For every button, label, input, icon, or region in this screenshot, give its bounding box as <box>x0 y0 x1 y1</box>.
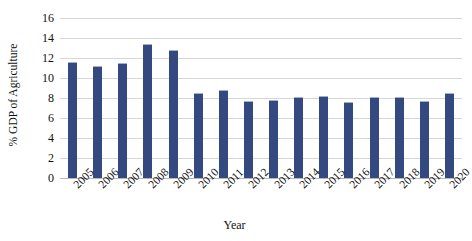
bar <box>319 96 328 178</box>
bar <box>244 101 253 178</box>
y-axis-tick-14: 14 <box>28 32 54 44</box>
bar-slot <box>311 18 336 178</box>
bar-slot <box>261 18 286 178</box>
bar <box>93 66 102 178</box>
bar <box>420 101 429 178</box>
bar <box>194 93 203 178</box>
bar <box>395 97 404 178</box>
y-axis-tick-16: 16 <box>28 12 54 24</box>
bar-slot <box>186 18 211 178</box>
bar-slot <box>110 18 135 178</box>
x-tick-slot: 2009 <box>161 180 186 222</box>
x-tick-slot: 2012 <box>236 180 261 222</box>
x-tick-slot: 2019 <box>412 180 437 222</box>
bar-slot <box>336 18 361 178</box>
bar-slot <box>85 18 110 178</box>
x-tick-slot: 2007 <box>110 180 135 222</box>
bar <box>143 44 152 178</box>
bar-slot <box>412 18 437 178</box>
y-axis-tick-6: 6 <box>28 112 54 124</box>
x-tick-slot: 2011 <box>211 180 236 222</box>
bar <box>269 100 278 178</box>
x-tick-slot: 2013 <box>261 180 286 222</box>
x-tick-slot: 2018 <box>387 180 412 222</box>
bar <box>169 50 178 178</box>
bar-slot <box>387 18 412 178</box>
x-tick-slot: 2008 <box>135 180 160 222</box>
x-tick-slot: 2016 <box>336 180 361 222</box>
x-axis-title: Year <box>0 218 469 232</box>
bar-slot <box>60 18 85 178</box>
bar <box>344 102 353 178</box>
bar <box>118 63 127 178</box>
y-axis-tick-8: 8 <box>28 92 54 104</box>
bar-slot <box>161 18 186 178</box>
bar-slot <box>286 18 311 178</box>
y-axis-tick-12: 12 <box>28 52 54 64</box>
y-axis-tick-0: 0 <box>28 172 54 184</box>
y-axis-tick-10: 10 <box>28 72 54 84</box>
bar-slot <box>236 18 261 178</box>
y-axis-title: % GDP of Agriculture <box>4 5 22 185</box>
bar <box>370 97 379 178</box>
x-axis-tick-labels: 2005200620072008200920102011201220132014… <box>60 180 462 222</box>
x-tick-slot: 2017 <box>362 180 387 222</box>
bar-slot <box>211 18 236 178</box>
bar <box>68 62 77 178</box>
bar-slot <box>135 18 160 178</box>
y-axis-tick-labels: 0246810121416 <box>28 0 54 190</box>
x-tick-slot: 2014 <box>286 180 311 222</box>
bar <box>219 90 228 178</box>
y-axis-tick-2: 2 <box>28 152 54 164</box>
x-tick-slot: 2005 <box>60 180 85 222</box>
x-tick-slot: 2010 <box>186 180 211 222</box>
bar-slot <box>437 18 462 178</box>
plot-area <box>60 18 462 178</box>
bar <box>294 97 303 178</box>
x-tick-slot: 2020 <box>437 180 462 222</box>
bars-layer <box>60 18 462 178</box>
bar <box>445 93 454 178</box>
y-axis-tick-4: 4 <box>28 132 54 144</box>
x-tick-slot: 2015 <box>311 180 336 222</box>
x-tick-slot: 2006 <box>85 180 110 222</box>
bar-slot <box>362 18 387 178</box>
